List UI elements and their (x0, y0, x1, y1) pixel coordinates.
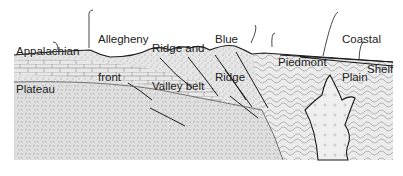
label-shelf: Shelf (367, 38, 393, 101)
label-line: Allegheny (98, 33, 149, 46)
label-line: front (98, 71, 149, 84)
label-line: Ridge and (152, 42, 204, 55)
label-allegheny-front: Allegheny front (98, 8, 149, 108)
label-piedmont: Piedmont (278, 31, 327, 94)
label-appalachian-plateau: Appalachian Plateau (16, 20, 79, 120)
label-blue-ridge: Blue Ridge (215, 8, 245, 108)
label-line: Plateau (16, 83, 79, 96)
label-ridge-and-valley-belt: Ridge and Valley belt (152, 17, 204, 117)
label-line: Piedmont (278, 56, 327, 69)
label-line: Appalachian (16, 45, 79, 58)
label-line: Ridge (215, 71, 245, 84)
label-line: Shelf (367, 63, 393, 76)
label-line: Blue (215, 33, 245, 46)
label-line: Valley belt (152, 80, 204, 93)
